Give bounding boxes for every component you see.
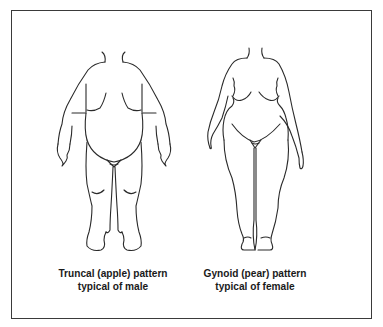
male-pattern-caption: Truncal (apple) pattern typical of male [43, 267, 184, 293]
female-pear-figure [208, 48, 304, 250]
female-caption-line2: typical of female [185, 280, 326, 293]
female-pattern-caption: Gynoid (pear) pattern typical of female [185, 267, 326, 293]
female-caption-line1: Gynoid (pear) pattern [185, 267, 326, 280]
male-caption-line2: typical of male [43, 280, 184, 293]
male-apple-figure [57, 52, 170, 251]
male-caption-line1: Truncal (apple) pattern [43, 267, 184, 280]
